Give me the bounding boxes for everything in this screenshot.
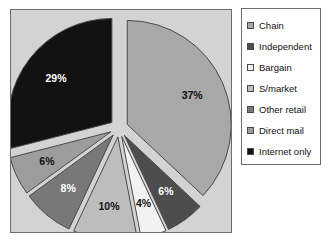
legend-label-bargain: Bargain (259, 63, 292, 73)
legend-item-bargain[interactable]: Bargain (247, 57, 320, 78)
legend-label-internet-only: Internet only (259, 147, 311, 157)
legend-item-direct-mail[interactable]: Direct mail (247, 120, 320, 141)
legend-label-independent: Independent (259, 42, 312, 52)
pie-slices-group (11, 18, 231, 232)
pie-slice-value-label: 8% (61, 182, 77, 194)
legend-swatch-chain (247, 22, 254, 29)
legend-label-other-retail: Other retail (259, 105, 306, 115)
pie-chart-figure: 37%6%4%10%8%6%29% Chain Independent Barg… (0, 0, 329, 246)
pie-svg: 37%6%4%10%8%6%29% (11, 10, 231, 232)
legend-swatch-internet-only (247, 148, 254, 155)
legend-swatch-direct-mail (247, 127, 254, 134)
legend-label-smarket: S/market (259, 84, 297, 94)
pie-slice-value-label: 4% (136, 197, 152, 209)
plot-area: 37%6%4%10%8%6%29% (10, 9, 232, 233)
legend-item-smarket[interactable]: S/market (247, 78, 320, 99)
legend-swatch-independent (247, 43, 254, 50)
legend-swatch-other-retail (247, 106, 254, 113)
legend-label-chain: Chain (259, 21, 284, 31)
pie-slice-value-label: 29% (45, 72, 67, 84)
pie-slice-value-label: 37% (182, 89, 204, 101)
pie-slice-value-label: 10% (98, 200, 120, 212)
legend-item-independent[interactable]: Independent (247, 36, 320, 57)
legend-item-internet-only[interactable]: Internet only (247, 141, 320, 162)
legend-swatch-bargain (247, 64, 254, 71)
chart-legend: Chain Independent Bargain S/market Other… (241, 8, 321, 165)
pie-slice-value-label: 6% (39, 155, 55, 167)
legend-swatch-smarket (247, 85, 254, 92)
legend-label-direct-mail: Direct mail (259, 126, 304, 136)
pie-slice-value-label: 6% (158, 185, 174, 197)
legend-item-chain[interactable]: Chain (247, 15, 320, 36)
legend-item-other-retail[interactable]: Other retail (247, 99, 320, 120)
